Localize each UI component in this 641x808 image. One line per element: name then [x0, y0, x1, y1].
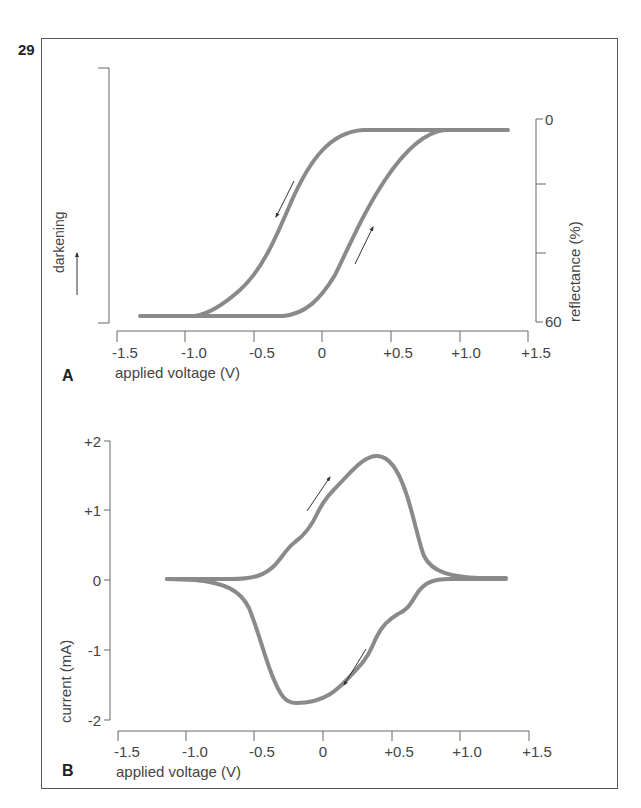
darkening-bracket: [98, 68, 109, 323]
y-tick-label: +2: [84, 433, 101, 450]
scan-direction-arrow-icon: [307, 477, 330, 511]
x-tick-label: -1.0: [181, 344, 207, 361]
figure-canvas: darkening 0 60 reflectance (%) -1.5 -1.0…: [0, 0, 641, 808]
cv-curve-cathodic: [167, 579, 506, 703]
panel-b-y-label: current (mA): [57, 640, 74, 723]
x-tick-label: -1.0: [182, 743, 208, 760]
y-tick-label: -1: [88, 642, 101, 659]
panel-b: +2 +1 0 -1 -2 current (mA) -1.5 -1.0 -0.…: [57, 433, 552, 780]
panel-a-x-axis: [117, 331, 528, 342]
panel-b-x-axis: [118, 731, 529, 741]
panel-b-label: B: [62, 762, 74, 779]
reflectance-axis: [536, 119, 543, 322]
cv-curve-anodic: [167, 456, 506, 579]
panel-a-x-label: applied voltage (V): [115, 364, 240, 381]
reflectance-tick-0: 0: [545, 111, 553, 128]
darkening-label: darkening: [51, 212, 67, 274]
panel-a: darkening 0 60 reflectance (%) -1.5 -1.0…: [51, 68, 583, 384]
x-tick-label: +0.5: [384, 743, 414, 760]
reflectance-curve-forward: [195, 130, 445, 316]
panel-b-y-axis: [104, 441, 110, 720]
scan-direction-arrow-icon: [344, 649, 366, 685]
reflectance-axis-label: reflectance (%): [566, 221, 583, 322]
x-tick-label: +1.5: [522, 743, 552, 760]
x-tick-label: -0.5: [249, 743, 275, 760]
x-tick-label: +1.0: [452, 743, 482, 760]
x-tick-label: +0.5: [383, 344, 413, 361]
x-tick-label: 0: [318, 344, 326, 361]
x-tick-label: -0.5: [249, 344, 275, 361]
scan-direction-arrow-icon: [355, 227, 373, 264]
x-tick-label: +1.0: [451, 344, 481, 361]
x-tick-label: +1.5: [521, 344, 551, 361]
x-tick-label: -1.5: [112, 344, 138, 361]
x-tick-label: -1.5: [114, 743, 140, 760]
y-tick-label: -2: [88, 712, 101, 729]
panel-b-x-label: applied voltage (V): [116, 763, 241, 780]
panel-a-label: A: [62, 367, 74, 384]
x-tick-label: 0: [319, 743, 327, 760]
reflectance-tick-60: 60: [545, 313, 562, 330]
y-tick-label: +1: [84, 502, 101, 519]
y-tick-label: 0: [93, 572, 101, 589]
